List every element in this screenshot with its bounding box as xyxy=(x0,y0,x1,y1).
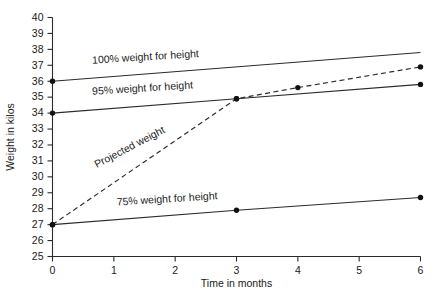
y-tick-label: 36 xyxy=(32,75,44,87)
y-tick-label: 34 xyxy=(32,106,44,118)
weight-for-height-line-chart: 252627282930313233343536373839400123456 … xyxy=(0,0,433,302)
data-point xyxy=(418,82,423,87)
data-point xyxy=(50,222,55,227)
y-tick-label: 30 xyxy=(32,170,44,182)
y-tick-label: 25 xyxy=(32,250,44,262)
x-tick-label: 4 xyxy=(295,264,301,276)
y-tick-label: 35 xyxy=(32,90,44,102)
x-tick-label: 3 xyxy=(234,264,240,276)
x-tick-label: 6 xyxy=(418,264,424,276)
y-tick-label: 27 xyxy=(32,218,44,230)
x-axis-title: Time in months xyxy=(201,277,272,289)
y-tick-label: 26 xyxy=(32,234,44,246)
y-tick-label: 38 xyxy=(32,43,44,55)
y-tick-label: 33 xyxy=(32,122,44,134)
x-tick-label: 2 xyxy=(172,264,178,276)
y-tick-label: 31 xyxy=(32,154,44,166)
y-tick-label: 29 xyxy=(32,186,44,198)
y-tick-label: 39 xyxy=(32,27,44,39)
data-point xyxy=(50,110,55,115)
data-point xyxy=(418,64,423,69)
x-tick-label: 1 xyxy=(111,264,117,276)
data-point xyxy=(295,85,300,90)
data-point xyxy=(234,96,239,101)
data-point xyxy=(234,208,239,213)
y-tick-label: 32 xyxy=(32,138,44,150)
y-tick-label: 28 xyxy=(32,202,44,214)
data-point xyxy=(418,195,423,200)
x-tick-label: 0 xyxy=(50,264,56,276)
y-tick-label: 40 xyxy=(32,11,44,23)
data-point xyxy=(50,79,55,84)
y-axis-title: Weight in kilos xyxy=(4,103,16,171)
chart-container: 252627282930313233343536373839400123456 … xyxy=(0,0,433,302)
y-tick-label: 37 xyxy=(32,59,44,71)
x-tick-label: 5 xyxy=(356,264,362,276)
